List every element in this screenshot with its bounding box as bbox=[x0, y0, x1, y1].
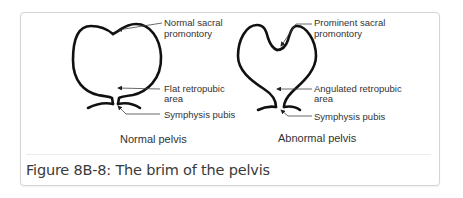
normal-sacral-label-line1: Normal sacral bbox=[164, 17, 223, 28]
caption-divider bbox=[26, 154, 431, 155]
abnormal-symphysis-label: Symphysis pubis bbox=[314, 111, 386, 122]
abnormal-pelvis-title: Abnormal pelvis bbox=[278, 132, 357, 144]
normal-pelvis-title: Normal pelvis bbox=[120, 133, 187, 145]
abnormal-retropubic-label-line2: area bbox=[314, 93, 334, 104]
abnormal-sacral-label-line2: promontory bbox=[314, 28, 362, 39]
normal-sacral-label-line2: promontory bbox=[164, 28, 212, 39]
normal-pelvis-shape bbox=[73, 24, 161, 108]
abnormal-pelvis-leaders bbox=[277, 24, 312, 116]
normal-retropubic-label-line2: area bbox=[164, 93, 184, 104]
abnormal-sacral-label-line1: Prominent sacral bbox=[314, 17, 385, 28]
normal-symphysis-label: Symphysis pubis bbox=[164, 109, 236, 120]
figure-caption: Figure 8B-8: The brim of the pelvis bbox=[26, 162, 270, 178]
abnormal-pelvis-shape bbox=[238, 25, 316, 110]
